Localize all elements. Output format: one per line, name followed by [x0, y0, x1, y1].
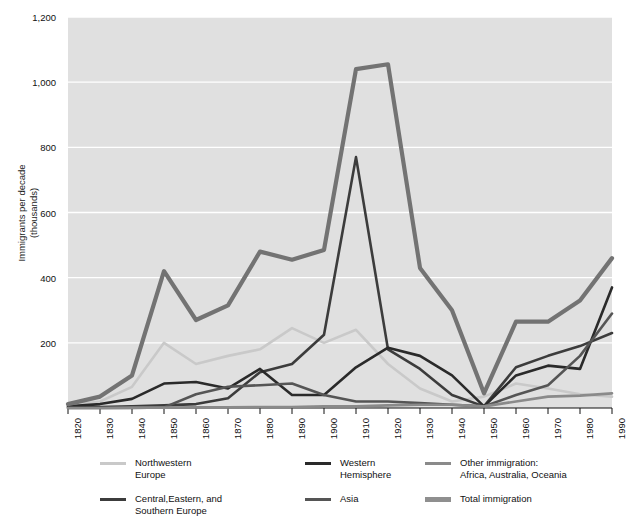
- y-tick-label-1200: 1,200: [2, 12, 56, 23]
- y-tick-label-1000: 1,000: [2, 77, 56, 88]
- x-tick-label-1970: 1970: [552, 418, 563, 439]
- legend-swatch-icon: [100, 462, 126, 465]
- x-tick-label-1900: 1900: [328, 418, 339, 439]
- legend-swatch-icon: [425, 462, 451, 465]
- x-tick-label-1930: 1930: [424, 418, 435, 439]
- x-tick-label-1960: 1960: [520, 418, 531, 439]
- legend-swatch-icon: [305, 498, 331, 501]
- x-tick-label-1980: 1980: [584, 418, 595, 439]
- y-tick-label-400: 400: [2, 272, 56, 283]
- x-tick-label-1940: 1940: [456, 418, 467, 439]
- x-tick-label-1910: 1910: [360, 418, 371, 439]
- x-tick-label-1890: 1890: [296, 418, 307, 439]
- x-tick-label-1830: 1830: [104, 418, 115, 439]
- x-tick-label-1920: 1920: [392, 418, 403, 439]
- x-tick-label-1990: 1990: [616, 418, 627, 439]
- x-tick-label-1870: 1870: [232, 418, 243, 439]
- x-tick-label-1850: 1850: [168, 418, 179, 439]
- immigration-line-chart: Immigrants per decade(thousands) 1,2001,…: [0, 0, 628, 520]
- legend-label: NorthwesternEurope: [135, 457, 192, 480]
- legend-label: Total immigration: [460, 493, 532, 505]
- chart-legend: NorthwesternEuropeWesternHemisphereOther…: [0, 455, 628, 520]
- legend-item[interactable]: NorthwesternEurope: [100, 457, 192, 480]
- y-tick-label-200: 200: [2, 337, 56, 348]
- y-tick-label-600: 600: [2, 207, 56, 218]
- legend-swatch-icon: [425, 497, 451, 502]
- plot-area: [0, 0, 628, 520]
- x-tick-label-1820: 1820: [72, 418, 83, 439]
- legend-swatch-icon: [305, 462, 331, 465]
- y-axis-tick-labels: 1,2001,000800600400200: [0, 0, 64, 520]
- legend-label: WesternHemisphere: [340, 457, 391, 480]
- x-tick-label-1840: 1840: [136, 418, 147, 439]
- x-tick-label-1950: 1950: [488, 418, 499, 439]
- legend-swatch-icon: [100, 498, 126, 501]
- legend-item[interactable]: Central,Eastern, andSouthern Europe: [100, 493, 222, 516]
- legend-item[interactable]: Total immigration: [425, 493, 532, 505]
- legend-item[interactable]: WesternHemisphere: [305, 457, 391, 480]
- x-tick-label-1860: 1860: [200, 418, 211, 439]
- y-tick-label-800: 800: [2, 142, 56, 153]
- legend-item[interactable]: Other immigration:Africa, Australia, Oce…: [425, 457, 567, 480]
- x-tick-label-1880: 1880: [264, 418, 275, 439]
- legend-item[interactable]: Asia: [305, 493, 358, 505]
- legend-label: Central,Eastern, andSouthern Europe: [135, 493, 222, 516]
- legend-label: Other immigration:Africa, Australia, Oce…: [460, 457, 567, 480]
- legend-label: Asia: [340, 493, 358, 505]
